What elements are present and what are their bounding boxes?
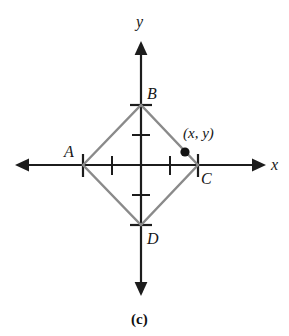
- y-axis-label: y: [136, 14, 143, 30]
- y-axis-top-arrowhead: [135, 41, 148, 55]
- vertex-label-b: B: [147, 86, 157, 102]
- coordinate-plane-graphic: [0, 0, 289, 336]
- x-axis-left-arrowhead: [15, 159, 29, 172]
- y-axis-bottom-arrowhead: [135, 282, 148, 296]
- figure-caption: (c): [131, 312, 148, 327]
- x-axis-right-arrowhead: [252, 159, 266, 172]
- y-axis: [135, 41, 148, 296]
- figure-container: x y A B C D (x, y) (c): [0, 0, 289, 336]
- x-axis-label: x: [271, 157, 278, 173]
- vertex-label-a: A: [64, 144, 74, 160]
- vertex-label-d: D: [147, 231, 159, 247]
- marked-point-label: (x, y): [183, 126, 214, 141]
- vertex-label-c: C: [201, 171, 212, 187]
- marked-point-dot: [180, 147, 189, 156]
